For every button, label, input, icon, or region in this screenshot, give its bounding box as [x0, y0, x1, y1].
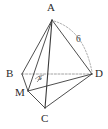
edge-A-C: [45, 20, 52, 108]
edge-M-C: [28, 91, 45, 108]
tetrahedron-drawing: [0, 0, 108, 129]
length-label-AD: 6: [76, 35, 81, 45]
geometry-figure: A B C D M 6 x: [0, 0, 108, 129]
vertex-label-D: D: [95, 68, 103, 79]
edge-C-D: [45, 74, 92, 108]
angle-label-x: x: [38, 74, 42, 82]
edge-A-B: [22, 20, 52, 74]
vertex-label-C: C: [41, 113, 48, 124]
measure-arc-A-D: [54, 21, 92, 72]
vertex-label-A: A: [47, 2, 55, 13]
vertex-label-M: M: [15, 87, 25, 98]
vertex-label-B: B: [6, 68, 13, 79]
edge-A-D: [52, 20, 92, 74]
